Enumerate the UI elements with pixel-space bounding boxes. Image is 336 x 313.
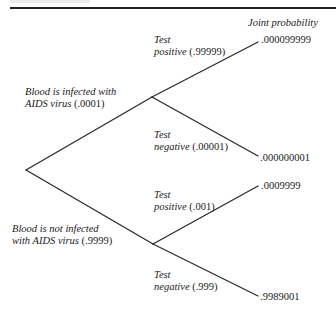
label-not-infected-line1: Blood is not infected: [12, 223, 112, 235]
label-infected: Blood is infected with AIDS virus (.0001…: [25, 86, 116, 110]
joint-prob-not-infected-positive: .0009999: [261, 180, 300, 192]
prob-not-infected-negative: (.999): [192, 281, 217, 292]
prob-not-infected: (.9999): [82, 235, 113, 246]
prob-infected-negative: (.00001): [192, 141, 228, 152]
label-not-infected-negative: Test negative (.999): [154, 269, 218, 293]
prob-infected-positive: (.99999): [189, 46, 225, 57]
label-infected-line1: Blood is infected with: [25, 86, 116, 98]
label-not-infected-line2: with AIDS virus (.9999): [12, 235, 112, 247]
joint-prob-not-infected-negative: .9989001: [260, 291, 299, 303]
prob-not-infected-positive: (.001): [189, 201, 214, 212]
joint-prob-infected-positive: .000099999: [261, 34, 311, 46]
label-not-infected-positive: Test positive (.001): [154, 189, 215, 213]
label-infected-line2: AIDS virus (.0001): [25, 98, 116, 110]
label-infected-negative: Test negative (.00001): [154, 129, 228, 153]
joint-prob-infected-negative: .000000001: [260, 152, 310, 164]
label-infected-positive: Test positive (.99999): [154, 34, 225, 58]
joint-probability-header: Joint probability: [248, 17, 318, 28]
label-not-infected: Blood is not infected with AIDS virus (.…: [12, 223, 112, 247]
prob-infected: (.0001): [74, 98, 105, 109]
